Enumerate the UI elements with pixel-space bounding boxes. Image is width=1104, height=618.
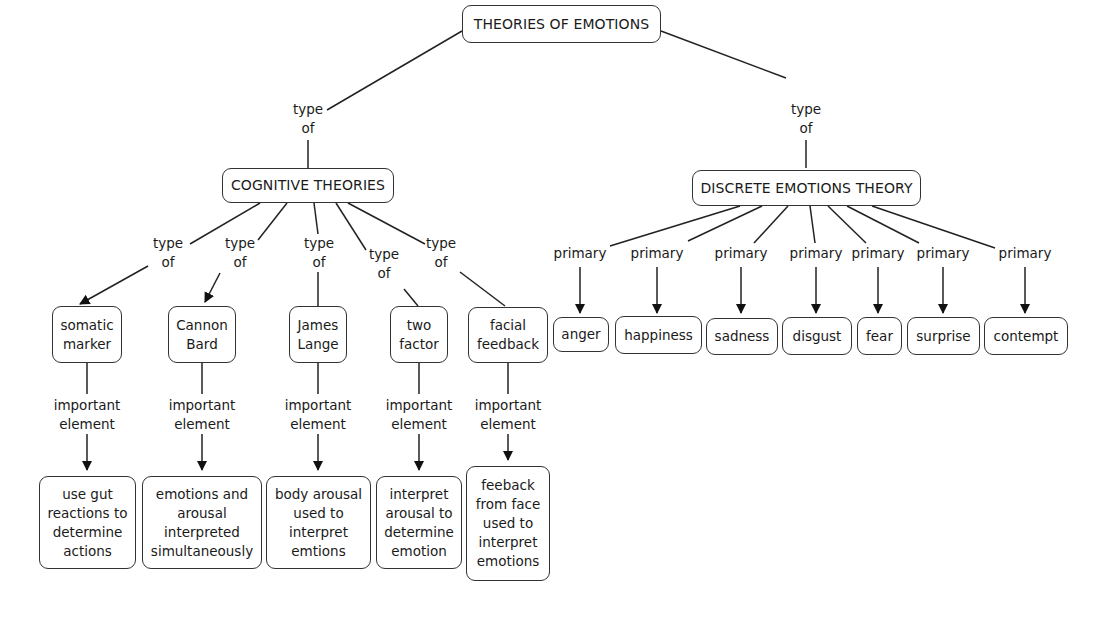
discrete-emotions-node[interactable]: DISCRETE EMOTIONS THEORY <box>692 170 921 206</box>
element-link-somatic: important element <box>54 396 121 434</box>
theory-node-facial-feedback[interactable]: facial feedback <box>468 307 548 363</box>
cognitive-theories-node[interactable]: COGNITIVE THEORIES <box>222 168 394 203</box>
link-label-two-factor: type of <box>369 245 399 283</box>
primary-label-sadness: primary <box>715 244 768 263</box>
theory-node-cannon-bard[interactable]: Cannon Bard <box>168 306 236 363</box>
root-node[interactable]: THEORIES OF EMOTIONS <box>462 5 661 43</box>
emotion-node-happiness[interactable]: happiness <box>615 316 702 354</box>
element-node-somatic[interactable]: use gut reactions to determine actions <box>39 476 136 569</box>
link-label-cannon: type of <box>225 234 255 272</box>
element-node-cannon[interactable]: emotions and arousal interpreted simulta… <box>142 476 262 569</box>
link-label-james: type of <box>304 234 334 272</box>
emotion-node-surprise[interactable]: surprise <box>907 317 980 355</box>
element-node-two-factor[interactable]: interpret arousal to determine emotion <box>376 476 462 569</box>
link-label-somatic: type of <box>153 234 183 272</box>
emotion-node-contempt[interactable]: contempt <box>984 317 1068 355</box>
primary-label-happiness: primary <box>631 244 684 263</box>
primary-label-surprise: primary <box>917 244 970 263</box>
primary-label-disgust: primary <box>790 244 843 263</box>
primary-label-fear: primary <box>852 244 905 263</box>
concept-map: THEORIES OF EMOTIONS type of type of COG… <box>0 0 1104 618</box>
element-link-james: important element <box>285 396 352 434</box>
emotion-node-sadness[interactable]: sadness <box>706 318 778 355</box>
element-node-facial[interactable]: feeback from face used to interpret emot… <box>466 466 550 581</box>
element-link-cannon: important element <box>169 396 236 434</box>
primary-label-contempt: primary <box>999 244 1052 263</box>
primary-label-anger: primary <box>554 244 607 263</box>
element-node-james[interactable]: body arousal used to interpret emtions <box>266 476 371 569</box>
link-label-facial: type of <box>426 234 456 272</box>
theory-node-james-lange[interactable]: James Lange <box>289 306 347 363</box>
link-label-cognitive: type of <box>293 100 323 138</box>
emotion-node-anger[interactable]: anger <box>553 317 609 352</box>
element-link-facial: important element <box>475 396 542 434</box>
theory-node-two-factor[interactable]: two factor <box>390 306 448 363</box>
link-label-discrete: type of <box>791 100 821 138</box>
element-link-two-factor: important element <box>386 396 453 434</box>
emotion-node-disgust[interactable]: disgust <box>782 317 852 355</box>
emotion-node-fear[interactable]: fear <box>857 317 902 355</box>
theory-node-somatic-marker[interactable]: somatic marker <box>52 306 122 363</box>
